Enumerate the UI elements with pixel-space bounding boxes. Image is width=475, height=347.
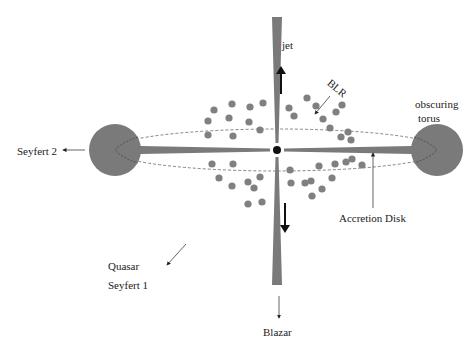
torus-right [411, 124, 463, 176]
blr-cloud [246, 103, 253, 110]
blr-cloud [286, 166, 293, 173]
blr-cloud [312, 102, 319, 109]
torus-label: torus [418, 112, 440, 124]
blr-cloud [244, 178, 251, 185]
blr-cloud [215, 174, 222, 181]
blr-cloud [250, 184, 257, 191]
blr-cloud [228, 100, 235, 107]
blr-cloud [229, 160, 236, 167]
blr-cloud [328, 174, 335, 181]
blr-cloud [204, 117, 211, 124]
blr-cloud [332, 108, 339, 115]
blr-cloud [244, 200, 251, 207]
blr-cloud [348, 155, 355, 162]
blr-cloud [344, 128, 351, 135]
blr-cloud [307, 177, 314, 184]
blr-cloud [258, 198, 265, 205]
torus-left [89, 124, 141, 176]
blr-cloud [287, 179, 294, 186]
black-hole [273, 146, 281, 154]
blr-cloud [210, 106, 217, 113]
blr-cloud [326, 124, 333, 131]
blazar-label: Blazar [263, 326, 292, 338]
blr-cloud [290, 112, 297, 119]
blr-cloud [308, 192, 315, 199]
blr-cloud [208, 160, 215, 167]
blr-cloud [315, 162, 322, 169]
blr-cloud [229, 132, 236, 139]
blr-cloud [303, 94, 310, 101]
blr-cloud [319, 115, 326, 122]
blr-cloud [204, 131, 211, 138]
quasar-label: Quasar [108, 260, 139, 272]
blr-label: BLR [325, 76, 350, 99]
blr-cloud [259, 99, 266, 106]
blr-cloud [318, 185, 325, 192]
blr-cloud [347, 136, 354, 143]
blr-cloud [331, 160, 338, 167]
blr-cloud [285, 104, 292, 111]
blr-cloud [358, 161, 365, 168]
accretion-disk-label: Accretion Disk [339, 212, 406, 224]
obscuring-label: obscuring [415, 98, 459, 110]
seyfert1-label: Seyfert 1 [108, 279, 148, 291]
agn-unified-model-diagram: jet BLR obscuring torus Seyfert 2 Accret… [0, 0, 475, 347]
jet-label: jet [281, 39, 293, 51]
seyfert2-label: Seyfert 2 [17, 145, 57, 157]
blr-cloud [337, 133, 344, 140]
blr-cloud [228, 182, 235, 189]
blr-cloud [245, 118, 252, 125]
quasar-arrow-icon [167, 244, 186, 265]
blr-cloud [225, 114, 232, 121]
blr-cloud [256, 126, 263, 133]
blr-cloud [338, 101, 345, 108]
blr-cloud [256, 173, 263, 180]
